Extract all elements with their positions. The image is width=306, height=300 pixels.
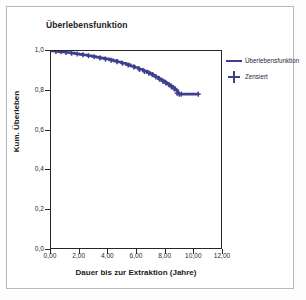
x-tick-label: 12,00 [202, 252, 242, 259]
legend-label-survival: Überlebensfunktion [245, 57, 299, 64]
legend-label-censored: Zensiert [245, 73, 268, 80]
survival-step-line [51, 51, 198, 94]
censored-mark [81, 52, 86, 57]
spss-chart-output: Überlebensfunktion Kum. Überleben 0,00,2… [0, 0, 306, 300]
y-tick-label: 0,4 [2, 165, 44, 172]
censored-mark [196, 92, 201, 97]
plot-area [50, 50, 222, 249]
y-tick-mark [45, 130, 50, 131]
y-tick-label: 0,2 [2, 205, 44, 212]
x-axis-title: Dauer bis zur Extraktion (Jahre) [50, 268, 222, 277]
y-tick-label: 1,0 [2, 46, 44, 53]
legend-plus-icon [226, 70, 242, 84]
legend-item-survival: Überlebensfunktion [226, 54, 302, 70]
y-tick-mark [45, 90, 50, 91]
survival-curve-canvas [51, 51, 221, 248]
chart-legend: Überlebensfunktion Zensiert [226, 54, 302, 86]
y-tick-label: 0,8 [2, 86, 44, 93]
legend-item-censored: Zensiert [226, 70, 302, 86]
y-tick-label: 0,0 [2, 245, 44, 252]
y-axis-title: Kum. Überleben [12, 62, 21, 182]
y-tick-mark [45, 50, 50, 51]
legend-line-icon [226, 54, 242, 68]
chart-title: Überlebensfunktion [46, 20, 128, 30]
y-tick-mark [45, 209, 50, 210]
y-tick-label: 0,6 [2, 126, 44, 133]
y-tick-mark [45, 169, 50, 170]
